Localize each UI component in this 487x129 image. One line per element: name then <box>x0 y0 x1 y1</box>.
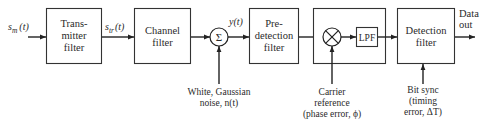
transmitter-label-line3: filter <box>64 42 85 53</box>
input-signal: sm(t) <box>8 21 46 37</box>
carrier-label-line3: (phase error, ϕ) <box>303 109 361 120</box>
transmitter-label-line2: mitter <box>61 30 87 41</box>
noise-annotation: White, Gaussian noise, n(t) <box>188 87 251 109</box>
bitsync-annotation: Bit sync (timing error, ΔT) <box>404 85 442 118</box>
predetection-label-line2: detection <box>255 30 294 41</box>
demodulator-block: LPF <box>314 9 386 64</box>
bitsync-label-line2: (timing <box>409 96 437 107</box>
channel-label-line1: Channel <box>145 25 180 36</box>
carrier-annotation: Carrier reference (phase error, ϕ) <box>303 87 361 120</box>
channel-filter-block: Channel filter <box>135 9 191 64</box>
multiplier-node <box>323 28 341 46</box>
carrier-label-line2: reference <box>314 98 349 108</box>
noise-label-line2: noise, n(t) <box>200 98 239 109</box>
output-label-line1: Data <box>459 8 479 19</box>
detection-label-line1: Detection <box>406 25 448 36</box>
sigma-icon: Σ <box>216 31 222 43</box>
output-label-line2: out <box>459 19 473 30</box>
transmitted-signal: str(t) <box>102 21 134 37</box>
detection-filter-block: Detection filter <box>398 9 455 64</box>
transmitter-filter-block: Trans- mitter filter <box>47 9 102 64</box>
lpf-label: LPF <box>359 33 375 43</box>
lpf-block: LPF <box>357 28 378 47</box>
predetection-filter-block: Pre- detection filter <box>250 9 299 64</box>
block-diagram: sm(t) Trans- mitter filter str(t) Channe… <box>0 0 487 129</box>
bitsync-label-line3: error, ΔT) <box>404 107 442 118</box>
bitsync-label-line1: Bit sync <box>407 85 438 95</box>
carrier-label-line1: Carrier <box>319 87 347 97</box>
transmitter-label-line1: Trans- <box>60 18 88 29</box>
transmitted-signal-label: str(t) <box>105 21 125 35</box>
detection-label-line2: filter <box>416 37 437 48</box>
input-signal-label: sm(t) <box>8 21 29 35</box>
channel-label-line2: filter <box>152 37 173 48</box>
predetection-label-line1: Pre- <box>265 18 283 29</box>
predetection-label-line3: filter <box>264 42 285 53</box>
noise-label-line1: White, Gaussian <box>188 87 251 97</box>
received-signal-label: y(t) <box>228 16 244 28</box>
summer-node: Σ <box>210 28 228 46</box>
